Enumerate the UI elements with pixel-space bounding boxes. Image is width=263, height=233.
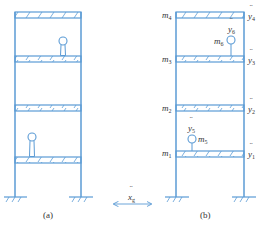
ground-support-left-icon <box>4 197 27 202</box>
svg-text:¨: ¨ <box>249 96 253 106</box>
label-y2-ddot: y2 ¨ <box>247 96 255 115</box>
svg-text:¨: ¨ <box>249 3 253 13</box>
slab-floor-3 <box>15 56 81 62</box>
label-m4: m4 <box>162 10 172 21</box>
label-m5: m5 <box>198 134 208 145</box>
ground-support-right-icon <box>69 197 93 202</box>
svg-text:¨: ¨ <box>249 47 253 57</box>
diagram-canvas: (a) m4 m3 m2 m1 <box>0 0 263 233</box>
label-y6-ddot: y6 ¨ <box>227 16 235 35</box>
appendage-lower-icon <box>28 133 36 157</box>
slab-floor-1 <box>176 151 244 157</box>
panel-b-frame: m4 m3 m2 m1 y4 ¨ y3 ¨ y2 ¨ y1 ¨ m6 y6 ¨ … <box>162 3 256 220</box>
mass-m6-icon <box>227 36 235 56</box>
panel-a-frame: (a) <box>4 12 93 220</box>
ground-support-right-icon <box>232 197 256 202</box>
mass-m5-icon <box>188 135 196 151</box>
label-y3-ddot: y3 ¨ <box>247 47 255 66</box>
ddot-mark: ¨ <box>129 184 133 194</box>
ground-support-left-icon <box>165 197 189 202</box>
label-y1-ddot: y1 ¨ <box>247 141 255 160</box>
slab-floor-4 <box>176 12 244 18</box>
svg-text:¨: ¨ <box>249 141 253 151</box>
label-y4-ddot: y4 ¨ <box>247 3 255 22</box>
caption-a: (a) <box>43 210 53 220</box>
label-y5-ddot: y5 ¨ <box>187 115 195 134</box>
svg-text:¨: ¨ <box>189 115 193 125</box>
slab-floor-2 <box>176 105 244 111</box>
label-m3: m3 <box>162 54 172 65</box>
appendage-upper-icon <box>59 37 67 56</box>
slab-floor-3 <box>176 56 244 62</box>
slab-floor-4 <box>15 12 81 18</box>
label-m1: m1 <box>162 148 172 159</box>
slab-floor-1 <box>15 157 81 163</box>
slab-floor-2 <box>15 105 81 111</box>
caption-b: (b) <box>200 210 211 220</box>
label-m2: m2 <box>162 103 172 114</box>
ground-motion: xg ¨ <box>114 184 151 204</box>
label-m6: m6 <box>214 36 224 47</box>
